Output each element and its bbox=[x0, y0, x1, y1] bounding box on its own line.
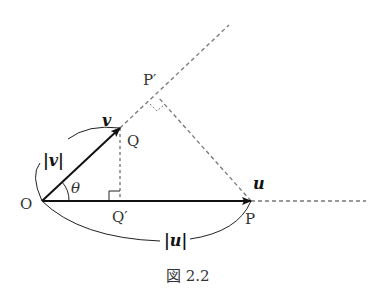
right-angle-pprime bbox=[150, 104, 165, 111]
label-vector-u: u bbox=[253, 174, 265, 193]
label-o: O bbox=[20, 195, 32, 213]
ray-extension-v bbox=[120, 25, 229, 128]
label-theta: θ bbox=[71, 179, 80, 197]
label-p-prime: P′ bbox=[143, 71, 157, 89]
label-abs-u: |u| bbox=[164, 231, 187, 250]
label-q-prime: Q′ bbox=[112, 208, 128, 226]
brace-arc-abs-u-left bbox=[42, 201, 160, 241]
right-angle-qprime bbox=[109, 191, 120, 201]
figure-caption: 図 2.2 bbox=[166, 267, 210, 285]
label-q: Q bbox=[127, 132, 139, 150]
perpendicular-p-pprime bbox=[158, 97, 251, 201]
label-abs-v: |v| bbox=[43, 151, 64, 170]
label-p: P bbox=[245, 210, 255, 228]
brace-arc-abs-v-upper bbox=[68, 127, 120, 139]
angle-arc-theta bbox=[62, 182, 69, 201]
brace-arc-abs-v bbox=[35, 163, 42, 201]
label-vector-v: v bbox=[102, 111, 112, 130]
brace-arc-abs-u-right bbox=[190, 201, 251, 239]
vector-projection-diagram: O P Q P′ Q′ θ u v |v| |u| 図 2.2 bbox=[0, 0, 384, 294]
